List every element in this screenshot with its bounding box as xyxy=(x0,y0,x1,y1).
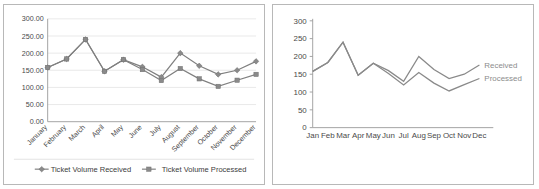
x-axis-tick-label: Mar xyxy=(336,131,350,140)
data-point-marker xyxy=(83,37,87,41)
x-axis-tick-label: Oct xyxy=(443,131,456,140)
x-axis-tick-label: Apr xyxy=(352,131,365,140)
original-line-chart: 0.0050.00100.00150.00200.00250.00300.00 … xyxy=(4,5,264,184)
data-point-marker xyxy=(215,72,221,78)
x-axis-tick-label: Dec xyxy=(472,131,486,140)
series-line xyxy=(48,39,256,77)
x-axis-tick-label: July xyxy=(148,123,163,138)
x-axis-tick-label: Jan xyxy=(306,131,319,140)
data-point-marker xyxy=(64,57,68,61)
x-axis-tick-label: Feb xyxy=(321,131,335,140)
x-axis-tick-label: May xyxy=(110,123,126,138)
y-axis-tick-label: 50.00 xyxy=(26,101,44,109)
redesigned-chart-panel: 050100150200250300 JanFebMarAprMayJunJul… xyxy=(272,4,534,185)
y-axis-tick-label: 200.00 xyxy=(22,50,44,58)
y-axis-tick-label: 150.00 xyxy=(22,67,44,75)
series-line xyxy=(48,39,256,86)
legend-label-processed: Ticket Volume Processed xyxy=(162,165,247,174)
y-axis-tick-label: 300 xyxy=(294,17,308,26)
x-axis-tick-label: April xyxy=(90,123,106,139)
data-point-marker xyxy=(178,66,182,70)
legend-group: Ticket Volume ReceivedTicket Volume Proc… xyxy=(14,159,254,174)
data-point-marker xyxy=(197,77,201,81)
legend-marker-received xyxy=(39,166,45,172)
data-point-marker xyxy=(102,69,106,73)
data-point-marker xyxy=(159,78,163,82)
y-axis-labels-group: 050100150200250300 xyxy=(294,17,308,133)
x-axis-tick-label: May xyxy=(366,131,381,140)
legend-marker-processed xyxy=(147,167,151,171)
series-direct-label-received: Received xyxy=(484,61,517,70)
data-point-marker xyxy=(216,84,220,88)
chart-comparison-page: 0.0050.00100.00150.00200.00250.00300.00 … xyxy=(0,0,539,189)
y-axis-tick-label: 100 xyxy=(294,88,308,97)
y-axis-tick-label: 250 xyxy=(294,34,308,43)
data-point-marker xyxy=(253,59,259,65)
gridlines-group xyxy=(48,19,256,122)
data-point-marker xyxy=(140,67,144,71)
series-line xyxy=(313,42,480,91)
data-point-marker xyxy=(234,68,240,74)
redesigned-line-chart: 050100150200250300 JanFebMarAprMayJunJul… xyxy=(273,5,533,184)
series-direct-label-processed: Processed xyxy=(484,74,521,83)
series-direct-labels-group: ReceivedProcessed xyxy=(484,61,521,84)
data-point-marker xyxy=(235,78,239,82)
series-lines-group xyxy=(313,42,480,91)
y-axis-labels-group: 0.0050.00100.00150.00200.00250.00300.00 xyxy=(22,15,44,126)
series-lines-group xyxy=(48,39,256,86)
x-axis-labels-group: JanFebMarAprMayJunJulAugSepOctNovDec xyxy=(306,131,486,140)
x-axis-tick-label: June xyxy=(127,123,144,140)
x-axis-tick-label: March xyxy=(67,123,87,143)
y-axis-tick-label: 100.00 xyxy=(22,84,44,92)
y-axis-tick-label: 250.00 xyxy=(22,33,44,41)
x-axis-labels-group: JanuaryFebruaryMarchAprilMayJuneJulyAugu… xyxy=(25,123,257,154)
legend-label-received: Ticket Volume Received xyxy=(51,165,131,174)
original-chart-panel: 0.0050.00100.00150.00200.00250.00300.00 … xyxy=(3,4,265,185)
x-axis-tick-label: Jun xyxy=(382,131,395,140)
x-axis-tick-label: Jul xyxy=(399,131,409,140)
data-point-marker xyxy=(121,57,125,61)
y-axis-tick-label: 200 xyxy=(294,52,308,61)
y-axis-tick-label: 300.00 xyxy=(22,15,44,23)
data-point-marker xyxy=(45,65,49,69)
x-axis-tick-label: Aug xyxy=(412,131,426,140)
series-line xyxy=(313,42,480,81)
y-axis-tick-label: 50 xyxy=(298,106,307,115)
x-axis-tick-label: Nov xyxy=(457,131,471,140)
data-point-marker xyxy=(254,72,258,76)
x-axis-tick-label: Sep xyxy=(427,131,442,140)
series-markers-group xyxy=(45,37,259,89)
y-axis-tick-label: 150 xyxy=(294,70,308,79)
